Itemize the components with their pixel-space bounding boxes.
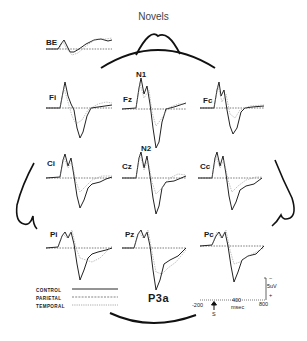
scale-y-minus: − [269, 275, 272, 281]
electrode-label-Cz: Cz [122, 162, 132, 171]
electrode-label-Pi: Pi [50, 230, 58, 239]
electrode-label-Fc: Fc [203, 96, 212, 105]
component-label-N1: N1 [136, 70, 146, 79]
electrode-label-Ci: Ci [47, 159, 55, 168]
head-bottom-arc [110, 313, 196, 323]
scale-tick-800: 800 [259, 301, 268, 307]
waveform-Ci [46, 154, 112, 208]
legend: CONTROL PARIETAL TEMPORAL [36, 286, 65, 310]
component-label-N2: N2 [141, 144, 151, 153]
electrode-label-Pc: Pc [204, 230, 214, 239]
stimulus-label: S [212, 311, 216, 317]
waveform-Pz [122, 230, 186, 290]
scale-unit-msec: msec [231, 304, 244, 310]
electrode-label-Fi: Fi [49, 93, 56, 102]
legend-item-temporal: TEMPORAL [36, 302, 65, 310]
scale-y-plus: + [269, 292, 272, 298]
head-top-arc [101, 50, 215, 68]
scale-tick--200: -200 [192, 302, 203, 308]
legend-item-parietal: PARIETAL [36, 294, 65, 302]
scale-tick-400: 400 [232, 297, 241, 303]
waveform-Fc [200, 82, 264, 134]
left-ear-icon [17, 163, 37, 229]
electrode-label-Fz: Fz [123, 95, 132, 104]
waveform-Fi [46, 82, 112, 138]
right-ear-icon [272, 160, 294, 226]
scale-y-5uV: 5uV [267, 283, 277, 289]
electrode-label-Cc: Cc [200, 162, 210, 171]
stimulus-arrow-icon [212, 302, 217, 311]
electrode-label-BE: BE [46, 38, 57, 47]
waveform-Cc [198, 152, 262, 210]
electrode-label-Pz: Pz [125, 230, 134, 239]
legend-item-control: CONTROL [36, 286, 65, 294]
waveform-Fz [122, 78, 186, 148]
component-label-P3a: P3a [148, 292, 169, 304]
